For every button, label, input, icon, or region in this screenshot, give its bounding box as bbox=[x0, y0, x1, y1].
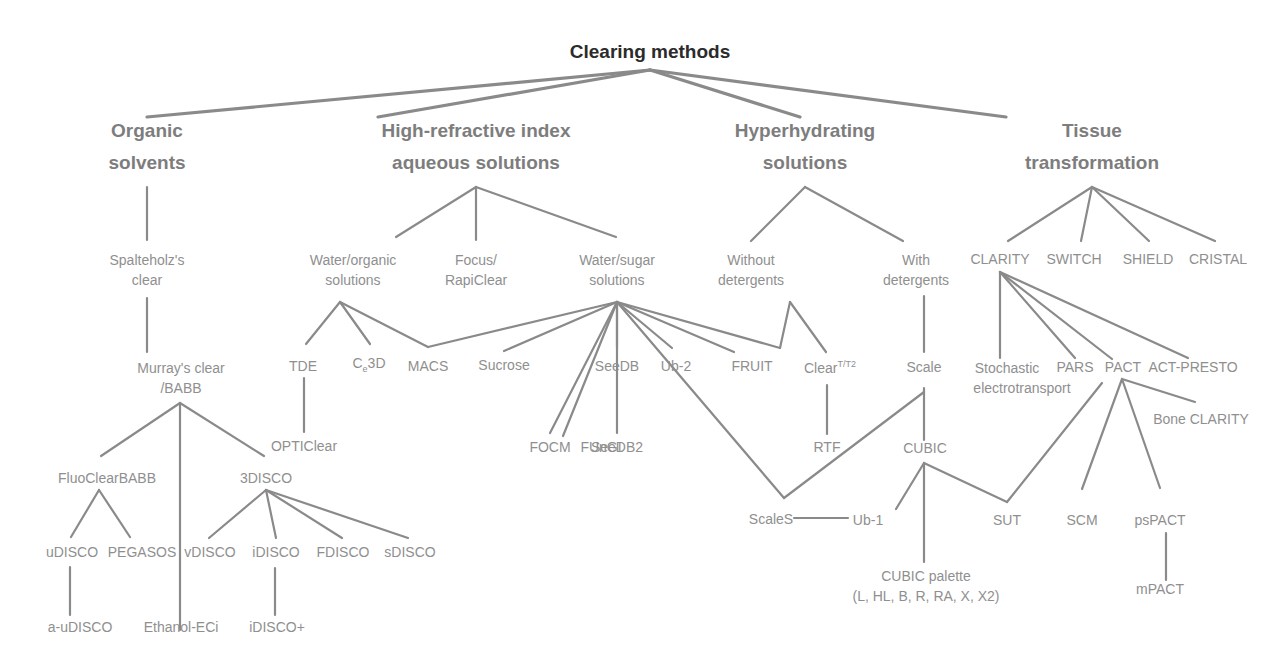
node-act-presto: ACT-PRESTO bbox=[1148, 357, 1237, 377]
connector-line bbox=[71, 490, 99, 537]
category-organic-solvents: Organic solvents bbox=[108, 115, 185, 179]
node-ub1: Ub-1 bbox=[853, 510, 883, 530]
connector-line bbox=[1092, 187, 1215, 241]
node-mpact: mPACT bbox=[1136, 579, 1184, 599]
node-clarity: CLARITY bbox=[970, 249, 1029, 269]
connector-line bbox=[617, 302, 780, 348]
connector-line bbox=[266, 490, 408, 538]
node-fruit: FRUIT bbox=[731, 356, 772, 376]
node-clear-t-t2: ClearT/T2 bbox=[804, 354, 856, 378]
connector-line bbox=[1082, 379, 1122, 489]
node-scale: Scale bbox=[906, 357, 941, 377]
node-3disco: 3DISCO bbox=[240, 468, 292, 488]
node-seedb: SeeDB bbox=[595, 356, 639, 376]
category-hyperhydrating: Hyperhydrating solutions bbox=[735, 115, 875, 179]
connector-line bbox=[266, 490, 342, 538]
connector-line bbox=[340, 302, 428, 347]
connector-line bbox=[790, 302, 826, 352]
node-pegasos: PEGASOS bbox=[108, 542, 176, 562]
node-scales: ScaleS bbox=[749, 509, 793, 529]
connector-line bbox=[617, 302, 784, 498]
connector-line bbox=[1092, 187, 1149, 241]
node-bone-clarity: Bone CLARITY bbox=[1153, 409, 1249, 429]
connector-line bbox=[924, 463, 1007, 502]
connector-line bbox=[1122, 379, 1195, 402]
node-focm: FOCM bbox=[529, 437, 570, 457]
node-vdisco: vDISCO bbox=[184, 542, 235, 562]
connector-line bbox=[428, 302, 617, 347]
connector-line bbox=[780, 302, 790, 348]
node-focus-rapiclear: Focus/ RapiClear bbox=[445, 250, 507, 290]
connector-line bbox=[650, 70, 1006, 117]
node-ub2: Ub-2 bbox=[661, 356, 691, 376]
node-fluoclearbabb: FluoClearBABB bbox=[58, 468, 156, 488]
node-spalteholz: Spalteholz's clear bbox=[109, 250, 184, 290]
connector-line bbox=[101, 403, 180, 456]
connector-line bbox=[476, 187, 616, 237]
node-ethanol-eci: Ethanol-ECi bbox=[144, 617, 219, 637]
node-sut: SUT bbox=[993, 510, 1021, 530]
node-stochastic-electrotransport: Stochastic electrotransport bbox=[958, 358, 1055, 398]
node-pspact: psPACT bbox=[1134, 510, 1185, 530]
connector-line bbox=[340, 302, 370, 344]
diagram-title: Clearing methods bbox=[570, 42, 730, 62]
node-cubic-palette: CUBIC palette (L, HL, B, R, RA, X, X2) bbox=[852, 566, 999, 606]
node-cubic: CUBIC bbox=[903, 438, 947, 458]
node-murray-babb: Murray's clear /BABB bbox=[137, 358, 224, 398]
connector-line bbox=[650, 70, 800, 117]
connector-line bbox=[1008, 187, 1092, 241]
node-sucrose: Sucrose bbox=[478, 355, 529, 375]
node-water-organic: Water/organic solutions bbox=[310, 250, 397, 290]
node-a-udisco: a-uDISCO bbox=[48, 617, 113, 637]
connector-line bbox=[1007, 383, 1102, 502]
connector-line bbox=[180, 403, 264, 456]
node-opticlear: OPTIClear bbox=[271, 436, 337, 456]
connector-line bbox=[805, 187, 903, 241]
connector-line bbox=[896, 463, 924, 509]
node-sdisco: sDISCO bbox=[384, 542, 435, 562]
connector-line bbox=[266, 490, 276, 538]
connector-line bbox=[617, 302, 734, 352]
node-without-detergents: Without detergents bbox=[718, 250, 784, 290]
category-high-refractive-index: High-refractive index aqueous solutions bbox=[382, 115, 571, 179]
node-with-detergents: With detergents bbox=[883, 250, 949, 290]
node-water-sugar: Water/sugar solutions bbox=[579, 250, 655, 290]
node-ce3d: Ce3D bbox=[352, 353, 385, 379]
node-switch: SWITCH bbox=[1046, 249, 1101, 269]
connector-line bbox=[1000, 272, 1075, 358]
node-udisco: uDISCO bbox=[46, 542, 98, 562]
connector-line bbox=[378, 70, 650, 117]
connector-line bbox=[99, 490, 130, 537]
connector-line bbox=[396, 187, 476, 237]
node-seedb2: SeeDB2 bbox=[591, 437, 643, 457]
category-tissue-transformation: Tissue transformation bbox=[1025, 115, 1159, 179]
node-cristal: CRISTAL bbox=[1189, 249, 1247, 269]
connector-line bbox=[751, 187, 805, 241]
node-tde: TDE bbox=[289, 356, 317, 376]
node-idisco: iDISCO bbox=[252, 542, 299, 562]
connector-line bbox=[147, 70, 650, 117]
connector-line bbox=[209, 490, 266, 538]
node-idisco-plus: iDISCO+ bbox=[249, 617, 305, 637]
node-scm: SCM bbox=[1066, 510, 1097, 530]
node-pact: PACT bbox=[1105, 357, 1141, 377]
node-pars: PARS bbox=[1056, 357, 1093, 377]
node-rtf: RTF bbox=[814, 437, 841, 457]
connector-line bbox=[306, 302, 340, 344]
node-shield: SHIELD bbox=[1123, 249, 1174, 269]
connector-line bbox=[1081, 187, 1092, 241]
node-fdisco: FDISCO bbox=[317, 542, 370, 562]
node-macs: MACS bbox=[408, 356, 448, 376]
connector-line bbox=[1122, 379, 1160, 488]
